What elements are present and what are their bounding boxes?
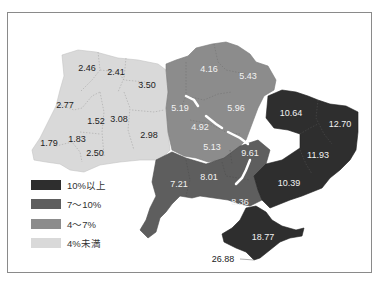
region-value-label: 12.70 xyxy=(329,119,352,129)
legend-label: 4%未満 xyxy=(67,236,101,250)
legend-swatch xyxy=(31,199,61,209)
region-value-label: 7.21 xyxy=(170,179,188,189)
legend-item-4to7: 4～7% xyxy=(31,218,106,229)
map-legend: 10%以上 7～10% 4～7% 4%未満 xyxy=(31,179,106,257)
region-value-label: 3.08 xyxy=(110,114,128,124)
legend-item-over10: 10%以上 xyxy=(31,179,106,190)
region-value-label: 2.41 xyxy=(107,67,125,77)
callout-value-label: 26.88 xyxy=(212,254,235,264)
legend-label: 10%以上 xyxy=(67,178,106,192)
region-value-label: 8.36 xyxy=(231,197,249,207)
legend-swatch xyxy=(31,219,61,229)
legend-item-7to10: 7～10% xyxy=(31,199,106,210)
region-value-label: 4.16 xyxy=(200,64,218,74)
legend-item-under4: 4%未満 xyxy=(31,238,106,249)
region-east-group xyxy=(254,90,358,208)
region-value-label: 5.96 xyxy=(227,103,245,113)
callout-line xyxy=(240,259,254,260)
region-value-label: 1.79 xyxy=(40,138,58,148)
legend-label: 7～10% xyxy=(67,197,101,211)
region-value-label: 2.46 xyxy=(78,63,96,73)
region-value-label: 5.13 xyxy=(203,142,221,152)
region-value-label: 18.77 xyxy=(252,232,275,242)
region-value-label: 5.43 xyxy=(239,71,257,81)
legend-swatch xyxy=(31,180,61,190)
region-value-label: 1.52 xyxy=(87,116,105,126)
region-value-label: 8.01 xyxy=(200,172,218,182)
region-value-label: 4.92 xyxy=(191,122,209,132)
region-value-label: 2.50 xyxy=(86,148,104,158)
region-value-label: 10.39 xyxy=(278,178,301,188)
region-value-label: 5.19 xyxy=(171,103,189,113)
region-value-label: 2.77 xyxy=(56,100,74,110)
region-value-label: 10.64 xyxy=(280,108,303,118)
region-value-label: 2.98 xyxy=(140,130,158,140)
region-value-label: 3.50 xyxy=(138,80,156,90)
region-value-label: 1.83 xyxy=(68,134,86,144)
legend-swatch xyxy=(31,238,61,248)
region-value-label: 9.61 xyxy=(241,148,259,158)
region-value-label: 11.93 xyxy=(307,150,329,160)
legend-label: 4～7% xyxy=(67,217,96,231)
